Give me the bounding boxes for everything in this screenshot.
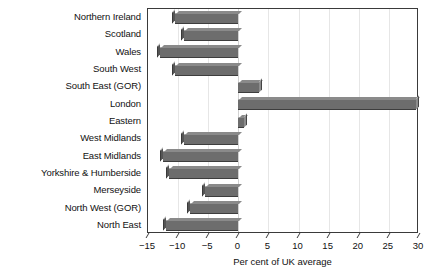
bar	[184, 30, 238, 41]
axis-tick	[266, 233, 274, 238]
bar-top-face	[191, 201, 242, 204]
category-axis: Northern IrelandScotlandWalesSouth WestS…	[0, 8, 141, 233]
bar-end-cap	[202, 182, 205, 196]
bar-end-cap	[157, 44, 160, 58]
bar-top-face	[239, 97, 420, 100]
bar-end-cap	[163, 217, 166, 231]
bar-top-face	[170, 166, 242, 169]
bar-chart: Northern IrelandScotlandWalesSouth WestS…	[0, 0, 431, 279]
axis-tick	[386, 233, 394, 238]
axis-tick-label: −10	[162, 240, 192, 251]
category-label: Yorkshire & Humberside	[0, 167, 141, 178]
axis-tick	[326, 233, 334, 238]
category-label: North West (GOR)	[0, 202, 141, 213]
bar	[190, 203, 238, 214]
bar-top-face	[206, 184, 242, 187]
category-label: South West	[0, 63, 141, 74]
axis-tick-label: 15	[313, 240, 343, 251]
category-label: London	[0, 98, 141, 109]
gridline	[299, 9, 300, 232]
axis-tick	[176, 233, 184, 238]
category-label: West Midlands	[0, 132, 141, 143]
axis-tick-label: 20	[343, 240, 373, 251]
bar	[160, 47, 238, 58]
bar-top-face	[176, 11, 242, 14]
gridline	[329, 9, 330, 232]
category-label: Wales	[0, 46, 141, 57]
axis-tick	[356, 233, 364, 238]
bar-end-cap	[244, 113, 247, 127]
category-label: North East	[0, 219, 141, 230]
gridline	[178, 9, 179, 232]
bar	[184, 134, 238, 145]
axis-tick-label: −5	[192, 240, 222, 251]
bar-top-face	[185, 132, 242, 135]
axis-tick	[146, 233, 154, 238]
axis-tick-label: 10	[283, 240, 313, 251]
axis-tick-label: 30	[403, 240, 431, 251]
bar	[163, 151, 238, 162]
gridline	[389, 9, 390, 232]
bar-end-cap	[160, 148, 163, 162]
axis-tick	[417, 233, 425, 238]
axis-tick	[296, 233, 304, 238]
category-label: East Midlands	[0, 150, 141, 161]
category-label: South East (GOR)	[0, 80, 141, 91]
bar-end-cap	[172, 9, 175, 23]
bar-top-face	[167, 218, 242, 221]
axis-tick-label: −15	[132, 240, 162, 251]
bar	[238, 117, 244, 128]
category-label: Scotland	[0, 28, 141, 39]
bar-end-cap	[181, 26, 184, 40]
axis-tick	[206, 233, 214, 238]
bar-end-cap	[172, 61, 175, 75]
bar-end-cap	[416, 96, 419, 110]
bar-top-face	[164, 149, 242, 152]
bar-end-cap	[259, 78, 262, 92]
axis-tick-label: 25	[373, 240, 403, 251]
bar	[175, 13, 238, 24]
bar-top-face	[161, 45, 242, 48]
bar	[169, 168, 238, 179]
bar	[166, 220, 238, 231]
bar	[175, 65, 238, 76]
bar	[205, 186, 238, 197]
category-label: Eastern	[0, 115, 141, 126]
gridline	[208, 9, 209, 232]
axis-tick-label: 0	[222, 240, 252, 251]
gridline	[268, 9, 269, 232]
axis-tick	[236, 233, 244, 238]
category-label: Northern Ireland	[0, 11, 141, 22]
bar	[238, 99, 416, 110]
bar-top-face	[176, 63, 242, 66]
bar-end-cap	[181, 130, 184, 144]
bar-end-cap	[166, 165, 169, 179]
bar	[238, 82, 259, 93]
category-label: Merseyside	[0, 184, 141, 195]
bar-end-cap	[187, 200, 190, 214]
gridline	[359, 9, 360, 232]
plot-area	[147, 8, 418, 233]
axis-title: Per cent of UK average	[147, 256, 418, 267]
axis-tick-label: 5	[252, 240, 282, 251]
bar-top-face	[185, 28, 242, 31]
